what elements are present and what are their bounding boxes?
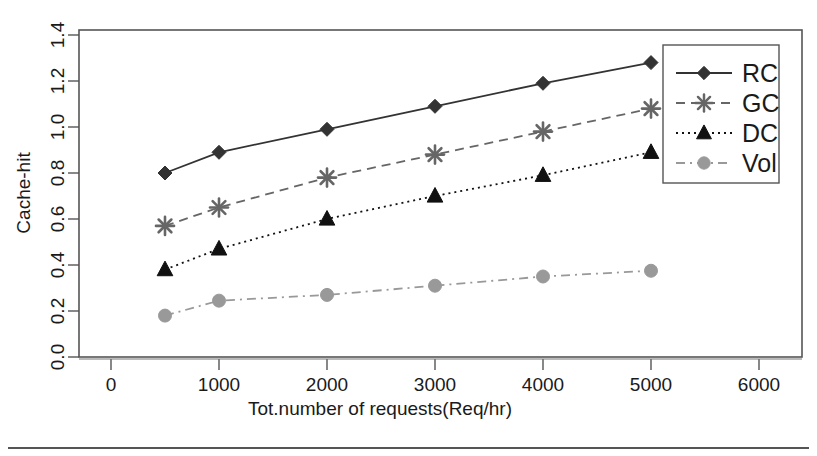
asterisk-marker-icon [534,123,552,141]
y-tick-label: 0.4 [47,251,68,278]
circle-marker-icon [321,288,334,301]
x-axis: 0100020003000400050006000 [79,359,802,395]
x-tick-label: 1000 [198,374,240,395]
series-line [165,63,651,173]
y-tick-label: 0.0 [47,344,68,370]
triangle-marker-icon [535,167,551,182]
triangle-marker-icon [157,261,173,276]
y-tick-label: 0.8 [47,160,68,186]
asterisk-marker-icon [426,146,444,164]
x-axis-title: Tot.number of requests(Req/hr) [248,398,512,419]
x-tick-label: 6000 [738,374,780,395]
legend-label: DC [742,119,778,147]
y-tick-label: 1.0 [47,114,68,140]
circle-marker-icon [159,309,172,322]
y-axis: 0.00.20.40.60.81.01.21.4 [47,21,79,370]
data-series-group [156,56,660,323]
y-tick-label: 0.2 [47,298,68,324]
series-vol [159,264,658,322]
diamond-marker-icon [158,166,172,180]
y-tick-label: 1.2 [47,68,68,94]
legend: RCGCDCVol [663,45,780,183]
diamond-marker-icon [320,122,334,136]
x-tick-label: 4000 [522,374,564,395]
diamond-marker-icon [428,99,442,113]
x-tick-label: 2000 [306,374,348,395]
circle-marker-icon [537,270,550,283]
diamond-marker-icon [536,76,550,90]
page-divider-rule [8,447,809,449]
figure-container: 0100020003000400050006000 0.00.20.40.60.… [0,0,817,456]
series-line [165,152,651,269]
asterisk-marker-icon [210,199,228,217]
asterisk-marker-icon [318,169,336,187]
x-tick-label: 0 [106,374,117,395]
legend-label: Vol [742,149,777,177]
y-tick-label: 0.6 [47,206,68,232]
circle-marker-icon [429,279,442,292]
circle-marker-icon [645,264,658,277]
series-line [165,271,651,316]
diamond-marker-icon [212,145,226,159]
y-axis-title: Cache-hit [13,152,34,234]
triangle-marker-icon [427,188,443,203]
series-dc [157,144,659,276]
asterisk-marker-icon [642,100,660,118]
y-tick-label: 1.4 [47,21,68,48]
legend-label: RC [742,59,778,87]
cache-hit-line-chart: 0100020003000400050006000 0.00.20.40.60.… [0,0,817,456]
legend-label: GC [742,89,780,117]
series-rc [158,56,658,180]
triangle-marker-icon [643,144,659,159]
triangle-marker-icon [211,240,227,255]
x-tick-label: 3000 [414,374,456,395]
x-tick-label: 5000 [630,374,672,395]
circle-marker-icon [213,294,226,307]
asterisk-marker-icon [695,94,712,111]
circle-marker-icon [698,157,710,169]
asterisk-marker-icon [156,217,174,235]
diamond-marker-icon [644,56,658,70]
